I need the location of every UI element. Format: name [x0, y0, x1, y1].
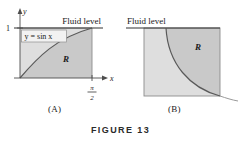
panel-a-x-tick-numerator: π	[90, 84, 94, 92]
panel-a-x-axis-label: x	[109, 74, 114, 83]
panel-a-caption: (A)	[48, 104, 61, 114]
panel-a-y-axis-label: y	[22, 7, 27, 16]
panel-b-curve-tail	[220, 96, 238, 101]
figure-13-container: y x 1 π 2 Fluid level y = sin x R	[0, 0, 241, 155]
panel-b-graphic: Fluid level R	[120, 0, 241, 120]
panel-a-region-label: R	[62, 54, 69, 64]
panel-b-fluid-level-label: Fluid level	[127, 16, 166, 26]
panel-b: Fluid level R	[120, 0, 241, 120]
panel-a-fluid-level-label: Fluid level	[62, 16, 101, 26]
panel-a-equation-label: y = sin x	[25, 32, 53, 41]
panel-a-y-axis-arrow-icon	[18, 8, 23, 14]
panel-a-graphic: y x 1 π 2 Fluid level y = sin x R	[0, 0, 120, 120]
panel-b-caption: (B)	[168, 104, 181, 114]
panel-a: y x 1 π 2 Fluid level y = sin x R	[0, 0, 120, 120]
panel-a-y-tick-label: 1	[6, 24, 10, 33]
panel-b-region-label: R	[194, 42, 201, 52]
panel-a-x-tick-denominator: 2	[90, 94, 94, 102]
panel-a-x-axis-arrow-icon	[102, 76, 108, 81]
figure-number-label: FIGURE 13	[0, 125, 241, 135]
